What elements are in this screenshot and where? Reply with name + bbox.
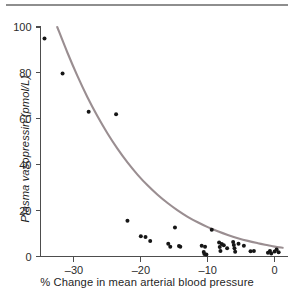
data-point	[125, 219, 129, 223]
x-axis-ticks: –30–20–100	[65, 257, 278, 276]
data-point	[225, 246, 229, 250]
x-tick-label: –20	[132, 264, 150, 276]
x-tick-label: –10	[199, 264, 217, 276]
data-point	[252, 249, 256, 253]
data-point	[269, 252, 273, 256]
data-point	[237, 242, 241, 246]
data-point	[242, 244, 246, 248]
data-point	[178, 245, 182, 249]
data-point	[148, 239, 152, 243]
x-tick-label: –30	[65, 264, 83, 276]
x-tick-label: 0	[272, 264, 278, 276]
data-point	[232, 246, 236, 250]
x-axis-title: % Change in mean arterial blood pressure	[0, 276, 294, 288]
data-point	[222, 243, 226, 247]
figure-container: 020406080100 –30–20–100 % Change in mean…	[0, 0, 294, 299]
data-point	[218, 249, 222, 253]
data-point	[173, 226, 177, 230]
y-axis-title-wrapper: Plasma vasopressin (pmol/L)	[15, 24, 33, 274]
data-point	[87, 110, 91, 114]
data-point	[61, 72, 65, 76]
data-point	[43, 36, 47, 40]
data-point	[168, 245, 172, 249]
data-point	[204, 252, 208, 256]
axes-group: 020406080100 –30–20–100	[13, 21, 288, 276]
data-point	[203, 245, 207, 249]
data-points-group	[43, 36, 281, 256]
data-point	[114, 112, 118, 116]
scatter-plot: 020406080100 –30–20–100	[0, 0, 294, 299]
exponential-fit-curve	[57, 27, 282, 248]
data-point	[139, 234, 143, 238]
data-point	[233, 250, 237, 254]
y-axis-title: Plasma vasopressin (pmol/L)	[19, 76, 31, 223]
data-point	[277, 250, 281, 254]
fit-curve-group	[57, 27, 282, 248]
data-point	[144, 235, 148, 239]
data-point	[210, 228, 214, 232]
